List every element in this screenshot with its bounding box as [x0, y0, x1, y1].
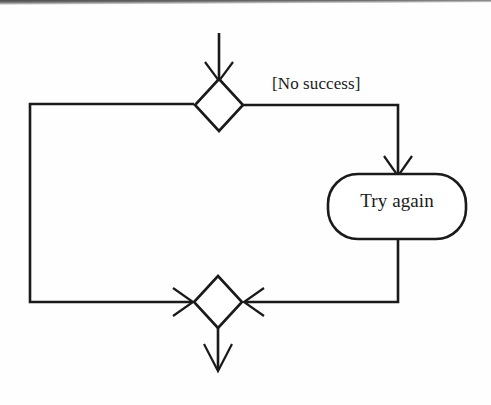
diagram-page: [No success] Try again: [0, 0, 491, 405]
action-label-try-again: Try again: [328, 190, 466, 212]
edge-no-success-shaft: [243, 105, 398, 175]
decision-node-diamond[interactable]: [194, 276, 242, 328]
edge-retry-return: [244, 239, 398, 316]
edge-loop-back-shaft: [30, 104, 194, 302]
edge-no-success: [243, 105, 412, 176]
edge-incoming: [205, 33, 233, 81]
edge-loop-back: [30, 104, 194, 316]
merge-node-diamond[interactable]: [195, 79, 243, 131]
edge-retry-return-shaft: [245, 239, 398, 302]
guard-label-no-success: [No success]: [272, 74, 361, 94]
edge-outgoing: [204, 328, 232, 371]
